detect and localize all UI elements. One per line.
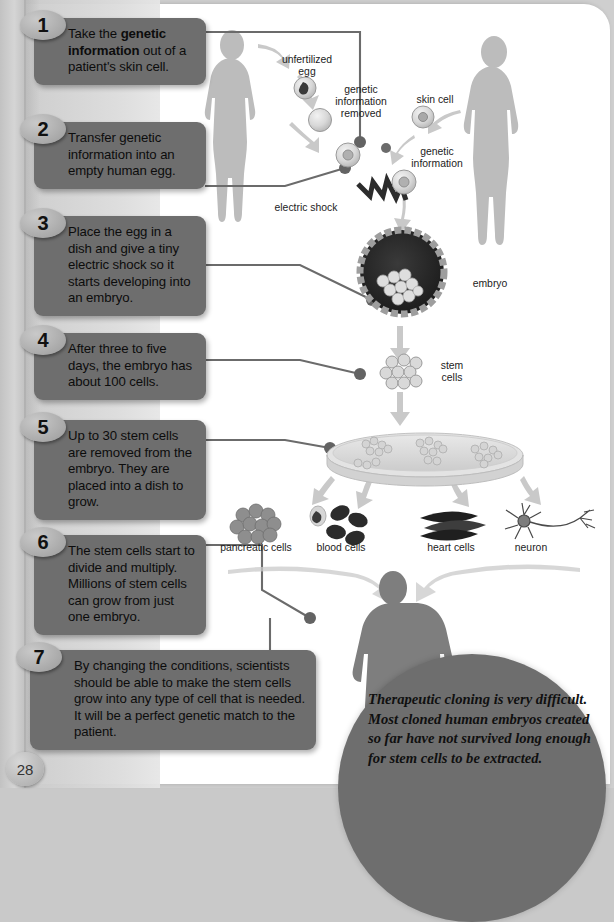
step-6[interactable]: 6 The stem cells start to divide and mul… [34,535,206,635]
step-7-number: 7 [16,642,62,672]
label-heart-cells: heart cells [415,542,487,554]
step-3-number: 3 [20,208,66,238]
human-figure-left [205,30,255,222]
step-7-text: By changing the conditions, scientists s… [30,650,316,750]
neuron-icon [505,503,595,539]
step-4[interactable]: 4 After three to five days, the embryo h… [34,333,206,400]
unfertilized-egg-cell [294,77,316,99]
step-2[interactable]: 2 Transfer genetic information into an e… [34,122,206,189]
step-1[interactable]: 1 Take the genetic information out of a … [34,18,206,85]
label-unfertilized-egg: unfertilized egg [268,54,346,78]
label-embryo: embryo [464,278,516,290]
label-pancreatic-cells: pancreatic cells [209,542,303,554]
petri-dish [327,433,523,486]
genetic-information-dot [381,143,391,153]
blood-cells-icon [310,502,370,547]
step-1-number: 1 [20,10,66,40]
pancreatic-cells-icon [230,504,281,544]
step-4-number: 4 [20,325,66,355]
reconstructed-egg-cell [336,143,360,167]
note-text: Therapeutic cloning is very difficult. M… [368,690,600,768]
step-6-number: 6 [20,527,66,557]
label-blood-cells: blood cells [305,542,377,554]
label-genetic-information: genetic information [398,146,476,170]
step-5-number: 5 [20,412,66,442]
label-electric-shock: electric shock [266,202,346,214]
label-skin-cell: skin cell [404,94,466,106]
human-figure-right [464,36,518,245]
label-neuron: neuron [503,542,559,554]
embryo-blastocyst [360,230,444,314]
skin-cell [412,106,434,128]
label-genetic-information-removed: genetic information removed [323,84,399,120]
step-3[interactable]: 3 Place the egg in a dish and give a tin… [34,216,206,316]
page-number: 28 [6,752,44,786]
step-7[interactable]: 7 By changing the conditions, scientists… [30,650,316,750]
heart-cells-icon [420,511,486,540]
step-5[interactable]: 5 Up to 30 stem cells are removed from t… [34,420,206,520]
stem-cells-cluster [380,354,422,389]
step-2-number: 2 [20,114,66,144]
shocked-egg-cell [392,170,416,194]
label-stem-cells: stem cells [430,360,474,384]
